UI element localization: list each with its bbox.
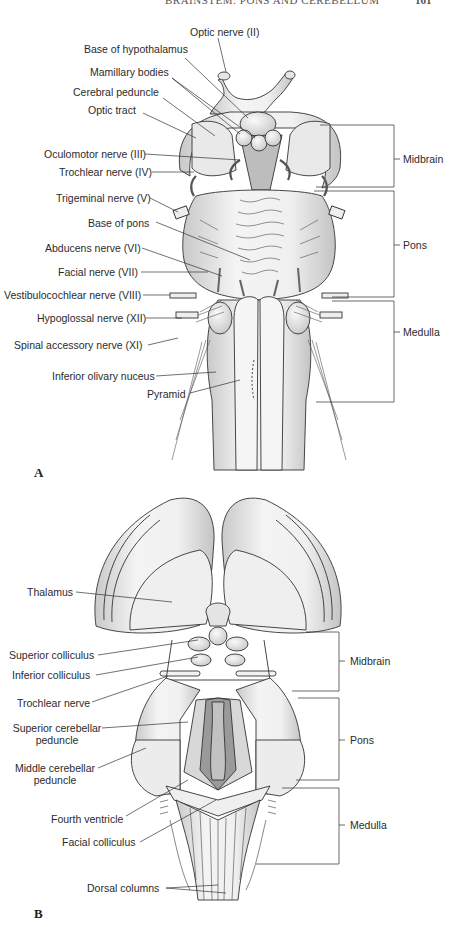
label-cerebral-peduncle: Cerebral peduncle: [73, 86, 159, 98]
label-facial-colliculus: Facial colliculus: [62, 836, 136, 848]
bracket-label-midbrain-a: Midbrain: [403, 153, 443, 165]
label-vestibulocochlear-nerve: Vestibulocochlear nerve (VIII): [4, 289, 141, 301]
label-oculomotor-nerve: Oculomotor nerve (III): [44, 148, 146, 160]
label-dorsal-columns: Dorsal columns: [87, 882, 159, 894]
label-hypoglossal-nerve: Hypoglossal nerve (XII): [37, 312, 146, 324]
panel-letter-b: B: [34, 906, 43, 922]
label-trochlear-nerve-iv: Trochlear nerve (IV): [59, 166, 152, 178]
label-trochlear-nerve: Trochlear nerve: [17, 697, 90, 709]
label-optic-nerve: Optic nerve (II): [190, 26, 259, 38]
label-trigeminal-nerve: Trigeminal nerve (V): [56, 192, 151, 204]
label-abducens-nerve: Abducens nerve (VI): [45, 242, 141, 254]
label-thalamus: Thalamus: [27, 586, 73, 598]
label-inferior-colliculus: Inferior colliculus: [12, 669, 90, 681]
label-fourth-ventricle: Fourth ventricle: [51, 813, 123, 825]
label-base-of-hypothalamus: Base of hypothalamus: [84, 43, 188, 55]
bracket-label-medulla-a: Medulla: [403, 326, 440, 338]
label-mamillary-bodies: Mamillary bodies: [90, 66, 169, 78]
label-optic-tract: Optic tract: [88, 104, 136, 116]
bracket-label-pons-b: Pons: [350, 734, 374, 746]
bracket-label-medulla-b: Medulla: [350, 819, 387, 831]
label-base-of-pons: Base of pons: [88, 217, 149, 229]
bracket-label-pons-a: Pons: [403, 239, 427, 251]
panel-a-drawing: [170, 71, 348, 470]
bracket-label-midbrain-b: Midbrain: [350, 655, 390, 667]
label-middle-cerebellar-peduncle: Middle cerebellar peduncle: [14, 762, 96, 786]
panel-letter-a: A: [34, 465, 43, 481]
brainstem-illustration: [0, 0, 463, 927]
label-superior-colliculus: Superior colliculus: [9, 649, 94, 661]
label-inferior-olivary-nucleus: Inferior olivary nuceus: [52, 370, 155, 382]
label-pyramid: Pyramid: [147, 388, 186, 400]
label-spinal-accessory-nerve: Spinal accessory nerve (XI): [14, 339, 142, 351]
label-superior-cerebellar-peduncle: Superior cerebellar peduncle: [12, 722, 102, 746]
label-facial-nerve: Facial nerve (VII): [58, 266, 138, 278]
